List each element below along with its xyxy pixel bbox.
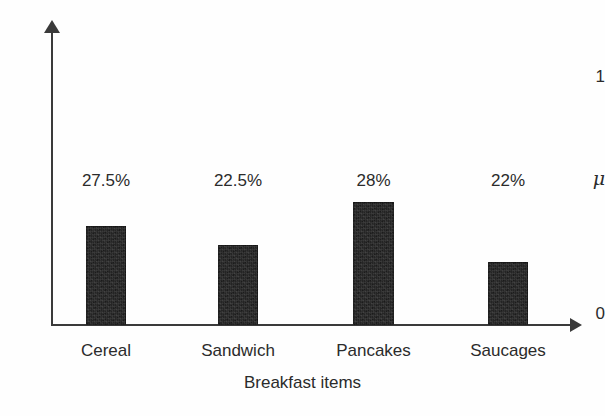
- bar[interactable]: [353, 202, 394, 325]
- bar-value-label: 22.5%: [214, 172, 262, 189]
- x-axis-category-label: Saucages: [470, 342, 546, 359]
- x-axis-category-label: Cereal: [81, 342, 131, 359]
- x-axis-category-label: Sandwich: [201, 342, 275, 359]
- bar[interactable]: [488, 262, 528, 325]
- x-axis-category-label: Pancakes: [336, 342, 411, 359]
- bar-group-sandwich: 22.5% Sandwich: [218, 24, 258, 325]
- bar-chart: 1 μ 0 27.5% Cereal 22.5% Sandwich 28% Pa…: [0, 0, 605, 416]
- bar-group-cereal: 27.5% Cereal: [86, 24, 126, 325]
- bar-group-saucages: 22% Saucages: [488, 24, 528, 325]
- bar-value-label: 27.5%: [82, 172, 130, 189]
- plot-area: 27.5% Cereal 22.5% Sandwich 28% Pancakes…: [53, 24, 572, 325]
- bar-value-label: 22%: [491, 172, 525, 189]
- bar[interactable]: [86, 226, 126, 325]
- bar[interactable]: [218, 245, 258, 325]
- bar-value-label: 28%: [356, 172, 390, 189]
- x-axis-title: Breakfast items: [0, 374, 605, 391]
- bar-group-pancakes: 28% Pancakes: [353, 24, 394, 325]
